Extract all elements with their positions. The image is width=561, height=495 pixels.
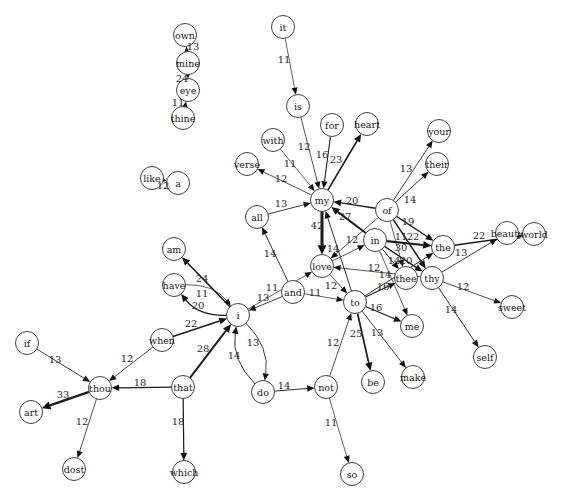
edge-line xyxy=(328,141,357,190)
edge-thou-to-dost xyxy=(77,399,97,458)
node-label: mine xyxy=(176,58,200,69)
edge-weight-label: 14 xyxy=(228,350,241,361)
arrowhead-icon xyxy=(333,265,340,271)
edge-weight-label: 12 xyxy=(275,173,288,184)
node-label: i xyxy=(236,310,239,321)
node-label: thou xyxy=(89,383,111,394)
arrowhead-icon xyxy=(472,340,479,348)
edge-weight-label: 13 xyxy=(455,247,468,258)
node-so: so xyxy=(341,463,364,486)
edge-line xyxy=(393,147,428,201)
node-my: my xyxy=(311,189,334,212)
edge-line xyxy=(190,331,226,378)
node-label: your xyxy=(427,126,450,137)
edge-weight-label: 12 xyxy=(298,141,311,152)
node-label: not xyxy=(318,382,334,393)
arrowhead-icon xyxy=(307,385,315,391)
node-label: be xyxy=(367,377,379,388)
node-and: and xyxy=(282,281,305,304)
edge-weight-label: 30 xyxy=(395,242,408,253)
node-label: thy xyxy=(424,273,440,284)
node-label: the xyxy=(435,242,451,253)
arrowhead-icon xyxy=(42,402,51,410)
edge-weight-label: 14 xyxy=(379,269,392,280)
arrowhead-icon xyxy=(303,202,311,208)
edge-weight-label: 12 xyxy=(327,337,340,348)
edge-weight-label: 11 xyxy=(172,97,185,108)
nodes-layer: ownmineeyethineitisforheartwithverselike… xyxy=(16,16,548,486)
edge-not-to-so xyxy=(329,398,349,463)
edge-with-to-my xyxy=(280,149,314,191)
arrowhead-icon xyxy=(232,326,238,334)
edge-weight-label: 20 xyxy=(400,255,413,266)
edge-weight-label: 12 xyxy=(346,234,359,245)
node-to: to xyxy=(344,291,367,314)
arrowhead-icon xyxy=(489,239,497,245)
node-mine: mine xyxy=(176,52,200,75)
node-of: of xyxy=(376,199,399,222)
node-label: me xyxy=(405,321,420,332)
arrowhead-icon xyxy=(365,362,372,371)
node-label: my xyxy=(315,195,330,206)
node-label: dost xyxy=(64,464,85,475)
arrowhead-icon xyxy=(82,376,90,382)
edge-weight-label: 25 xyxy=(350,328,363,339)
edge-weight-label: 24 xyxy=(196,273,209,284)
node-label: of xyxy=(382,205,393,216)
edge-weight-label: 14 xyxy=(445,304,458,315)
edge-weight-label: 14 xyxy=(388,255,401,266)
node-a: a xyxy=(167,172,190,195)
edge-weight-label: 14 xyxy=(264,248,277,259)
edge-weight-label: 27 xyxy=(339,211,352,222)
edge-weight-label: 22 xyxy=(185,318,198,329)
node-thee: thee xyxy=(395,267,418,290)
edge-weight-label: 16 xyxy=(377,281,390,292)
node-is: is xyxy=(287,95,310,118)
node-label: make xyxy=(400,372,426,383)
edge-weight-label: 18 xyxy=(134,377,147,388)
edge-weight-label: 13 xyxy=(247,337,260,348)
node-label: when xyxy=(149,335,175,346)
edge-weight-label: 22 xyxy=(473,230,486,241)
arrowhead-icon xyxy=(180,453,187,461)
edge-weight-label: 12 xyxy=(157,180,170,191)
edge-weight-label: 12 xyxy=(76,416,89,427)
node-thy: thy xyxy=(421,267,444,290)
arrowhead-icon xyxy=(77,450,83,458)
edge-weight-label: 33 xyxy=(57,389,70,400)
node-label: am xyxy=(167,244,182,255)
edge-weight-label: 24 xyxy=(176,73,189,84)
edge-weight-label: 22 xyxy=(407,231,420,242)
arrowhead-icon xyxy=(292,87,298,95)
node-label: and xyxy=(284,287,302,298)
edge-weight-label: 12 xyxy=(325,280,338,291)
arrowhead-icon xyxy=(109,374,117,381)
node-label: a xyxy=(175,178,181,189)
edge-thy-to-self xyxy=(438,288,478,348)
edge-weight-label: 11 xyxy=(196,288,209,299)
node-beauty: beauty xyxy=(491,222,524,245)
edge-weight-label: 20 xyxy=(346,195,359,206)
edge-weight-label: 18 xyxy=(172,416,185,427)
node-me: me xyxy=(401,315,424,338)
node-label: is xyxy=(294,101,302,112)
node-verse: verse xyxy=(233,153,260,176)
node-art: art xyxy=(20,401,43,424)
arrowhead-icon xyxy=(325,211,331,219)
arrowhead-icon xyxy=(425,253,433,260)
edge-weight-label: 42 xyxy=(311,220,324,231)
node-label: thine xyxy=(171,113,196,124)
arrowhead-icon xyxy=(336,296,344,302)
arrowhead-icon xyxy=(318,245,327,254)
arrowhead-icon xyxy=(344,455,350,463)
node-label: which xyxy=(170,467,199,478)
edge-weight-label: 11 xyxy=(284,158,297,169)
arrowhead-icon xyxy=(425,234,433,241)
node-make: make xyxy=(400,366,426,389)
node-label: to xyxy=(350,297,360,308)
node-label: sweet xyxy=(498,302,526,313)
edge-weight-label: 11 xyxy=(395,231,408,242)
node-not: not xyxy=(315,376,338,399)
node-label: so xyxy=(347,469,358,480)
node-label: it xyxy=(280,22,287,33)
